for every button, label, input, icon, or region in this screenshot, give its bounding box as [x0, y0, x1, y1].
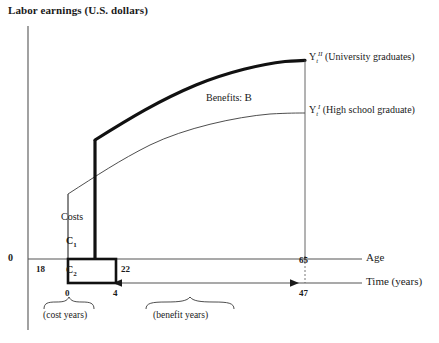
- cost-years-brace: [44, 297, 94, 309]
- time-tick-label-47: 47: [299, 289, 308, 298]
- highschool-curve-label: YtI (High school graduate): [309, 104, 415, 118]
- age-tick-label-18: 18: [36, 265, 45, 274]
- figure-container: Labor earnings (U.S. dollars): [0, 0, 439, 343]
- benefit-years-caption: (benefit years): [153, 311, 208, 321]
- time-tick-label-4: 4: [113, 289, 118, 298]
- university-legend-text: (University graduates): [325, 51, 415, 62]
- highschool-subscript: t: [316, 110, 318, 117]
- benefits-symbol: B: [245, 91, 252, 103]
- cost-c1-label: C1: [66, 236, 77, 249]
- university-curve-label: YtII (University graduates): [309, 51, 415, 65]
- highschool-superscript: I: [318, 103, 320, 110]
- costs-label: Costs: [61, 212, 83, 222]
- cost-c2-subscript: 2: [73, 270, 77, 278]
- origin-label: 0: [8, 253, 13, 263]
- age-tick-label-65: 65: [299, 256, 308, 265]
- benefits-label: Benefits: B: [206, 92, 252, 103]
- cost-c1-subscript: 1: [73, 241, 77, 249]
- age-tick-label-22: 22: [121, 265, 130, 274]
- time-axis-arrowhead: [290, 279, 299, 287]
- highschool-earnings-curve: [68, 113, 305, 194]
- time-axis-label: Time (years): [366, 276, 422, 287]
- university-superscript: II: [318, 50, 322, 57]
- benefit-years-brace: [146, 297, 234, 309]
- time-tick-label-0: 0: [65, 289, 70, 298]
- highschool-legend-text: (High school graduate): [323, 104, 415, 115]
- benefits-text: Benefits:: [206, 92, 245, 103]
- cost-years-caption: (cost years): [43, 311, 87, 321]
- cost-c2-label: C2: [66, 265, 77, 278]
- age-axis-label: Age: [366, 252, 384, 263]
- university-earnings-curve: [95, 60, 305, 140]
- university-subscript: t: [316, 57, 318, 64]
